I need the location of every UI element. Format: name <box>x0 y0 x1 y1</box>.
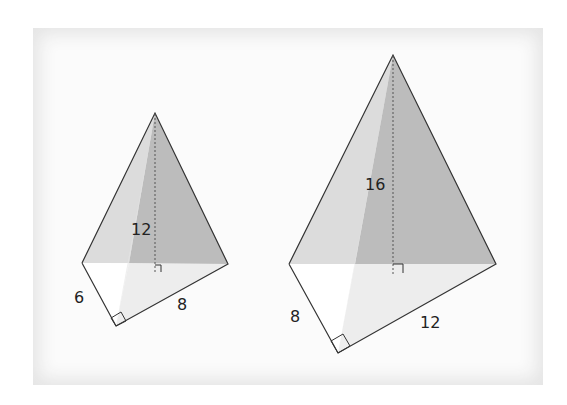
face-right <box>355 55 496 264</box>
leg-b-label: 12 <box>420 313 440 332</box>
leg-a-label: 8 <box>290 307 300 326</box>
small-pyramid: 12 6 8 <box>74 113 228 326</box>
pyramids-diagram: 12 6 8 16 8 12 <box>0 0 567 405</box>
leg-a-label: 6 <box>74 288 84 307</box>
leg-b-label: 8 <box>177 295 187 314</box>
height-label: 16 <box>365 175 385 194</box>
height-label: 12 <box>131 220 151 239</box>
large-pyramid: 16 8 12 <box>289 55 496 353</box>
